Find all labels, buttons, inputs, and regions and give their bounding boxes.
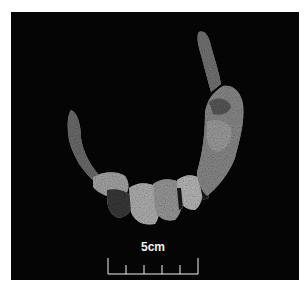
scale-ruler <box>107 256 199 278</box>
photo-frame: 5cm <box>11 12 299 280</box>
scale-label: 5cm <box>107 240 199 254</box>
scale-bar: 5cm <box>107 238 199 278</box>
